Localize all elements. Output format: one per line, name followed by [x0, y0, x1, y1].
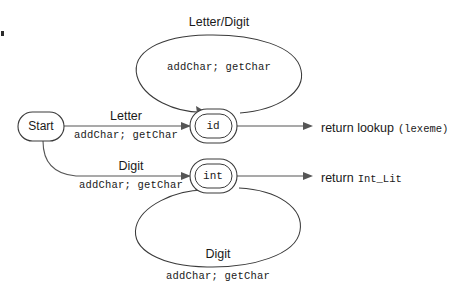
output-int-code: Int_Lit [358, 173, 402, 185]
loop-id-action-label: addChar; getChar [167, 62, 271, 73]
node-label-id: id [206, 121, 219, 132]
diagram-canvas: Start id int Letter/Digit addChar; getCh… [0, 0, 463, 288]
output-label-id: return lookup(lexeme) [321, 119, 448, 135]
output-id-code: (lexeme) [398, 123, 448, 135]
edge-start-id-condition-label: Letter [110, 110, 142, 123]
edge-start-to-int [43, 141, 185, 176]
node-label-int: int [203, 171, 223, 182]
output-label-int: returnInt_Lit [321, 169, 402, 185]
loop-int-condition-label: Digit [205, 248, 230, 261]
output-id-keyword: return lookup [321, 121, 394, 135]
loop-int-action-label: addChar; getChar [166, 271, 270, 282]
arrow-head-int-return [303, 172, 313, 180]
arrow-head-id-return [303, 122, 313, 130]
edge-start-id-action-label: addChar; getChar [74, 130, 178, 141]
loop-id-condition-label: Letter/Digit [189, 16, 249, 29]
output-int-keyword: return [321, 171, 354, 185]
loop-edge-id [136, 35, 301, 113]
diagram-graphics [0, 0, 463, 288]
node-label-start: Start [28, 120, 53, 132]
edge-start-int-condition-label: Digit [118, 160, 143, 173]
edge-start-int-action-label: addChar; getChar [79, 180, 183, 191]
